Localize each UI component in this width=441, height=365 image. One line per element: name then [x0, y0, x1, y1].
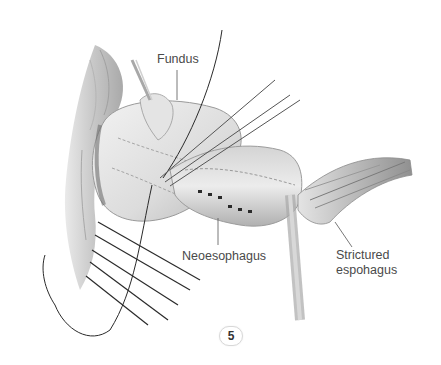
neoesophagus [170, 146, 302, 320]
label-neoesophagus: Neoesophagus [182, 249, 266, 264]
label-strictured-esophagus: Strictured espohagus [336, 248, 416, 278]
label-fundus: Fundus [157, 52, 199, 67]
strictured-esophagus [298, 158, 412, 224]
surgical-illustration [0, 0, 441, 365]
figure-number-badge: 5 [219, 326, 243, 346]
